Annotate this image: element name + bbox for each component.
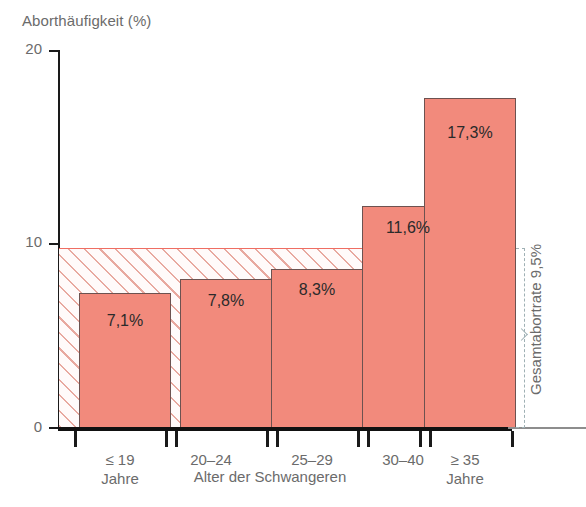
bar-value-label-2: 7,8%: [180, 292, 272, 310]
x-axis-tick-6: [367, 431, 370, 447]
y-axis-title: Aborthäufigkeit (%): [22, 12, 151, 29]
y-axis-tick-0: [49, 427, 58, 429]
x-category-label-2: 20–24: [165, 450, 257, 469]
x-axis-tick-1: [165, 431, 168, 447]
x-axis-tick-9: [511, 431, 514, 447]
x-axis-tick-3: [266, 431, 269, 447]
x-axis-tick-5: [357, 431, 360, 447]
x-category-label-3: 25–29: [266, 450, 358, 469]
x-axis-tick-7: [419, 431, 422, 447]
overall-rate-label: Gesamtabortrate 9,5%: [527, 54, 547, 244]
y-tick-label-20: 20: [8, 40, 42, 57]
bar-chart: Aborthäufigkeit (%) 20 10 0 7,1% 7,8% 8,…: [0, 0, 586, 507]
x-axis-tick-0: [74, 431, 77, 447]
bar-age-ge-35: [424, 98, 516, 429]
x-axis-tick-8: [429, 431, 432, 447]
bar-value-label-5: 17,3%: [424, 124, 516, 142]
x-axis-tick-2: [175, 431, 178, 447]
y-axis-tick-20: [49, 50, 58, 52]
x-axis-title: Alter der Schwangeren: [0, 468, 540, 485]
bar-value-label-3: 8,3%: [271, 281, 363, 299]
overall-rate-label-text: Gesamtabortrate 9,5%: [527, 244, 544, 434]
bar-value-label-1: 7,1%: [79, 312, 171, 330]
x-axis-line: [58, 427, 512, 431]
x-axis-tick-4: [276, 431, 279, 447]
y-axis-tick-10: [49, 243, 58, 245]
y-tick-label-0: 0: [8, 418, 42, 435]
bar-value-label-4: 11,6%: [362, 219, 454, 237]
y-tick-label-10: 10: [8, 233, 42, 250]
